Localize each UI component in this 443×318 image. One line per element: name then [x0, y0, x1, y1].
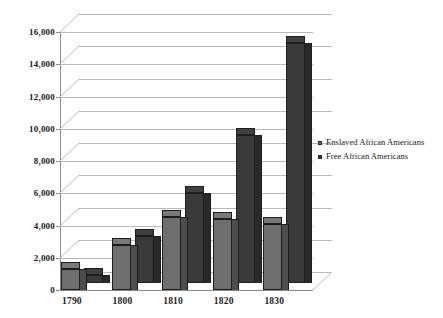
bar-top-face: [185, 186, 204, 193]
plot-area: 02,0004,0006,0008,00010,00012,00014,0001…: [60, 32, 313, 290]
y-axis-tick-label: 16,000: [29, 27, 55, 37]
legend-swatch-icon-enslaved: [318, 141, 322, 145]
gridline-riser: [60, 14, 79, 33]
legend-label-free: Free African Americans: [326, 152, 408, 161]
bar-side-face: [204, 193, 211, 283]
x-axis-label-1800: 1800: [113, 296, 133, 306]
bar-side-face: [154, 236, 161, 283]
bar-front-face: [213, 219, 232, 290]
bar-front-face: [263, 224, 282, 290]
bar-front-face: [162, 217, 181, 290]
gridline: [60, 64, 313, 65]
bar-1800-enslaved: [112, 245, 131, 290]
bar-1810-enslaved: [162, 217, 181, 290]
bar-front-face: [112, 245, 131, 290]
x-axis-label-1810: 1810: [163, 296, 183, 306]
x-axis-label-1790: 1790: [62, 296, 82, 306]
gridline-back: [79, 14, 332, 15]
x-axis-label-1820: 1820: [214, 296, 234, 306]
y-axis-tick-label: 8,000: [34, 156, 55, 166]
gridline-riser: [60, 111, 79, 130]
gridline: [60, 97, 313, 98]
y-axis-tick-mark: [56, 129, 60, 130]
bar-side-face: [305, 43, 312, 283]
bar-side-face: [232, 219, 239, 290]
bar-side-face: [131, 245, 138, 290]
y-axis-tick-mark: [56, 258, 60, 259]
y-axis-tick-label: 10,000: [29, 124, 55, 134]
bar-side-face: [103, 275, 110, 283]
bar-top-face: [162, 210, 181, 217]
x-axis-line: [60, 290, 313, 291]
bar-top-face: [263, 217, 282, 224]
bar-1820-enslaved: [213, 219, 232, 290]
bar-top-face: [286, 36, 305, 43]
x-axis-label-1830: 1830: [264, 296, 284, 306]
gridline-riser: [60, 46, 79, 65]
y-axis-tick-mark: [56, 193, 60, 194]
gridline-riser: [60, 240, 79, 259]
bar-top-face: [236, 128, 255, 135]
bar-front-face: [61, 269, 80, 290]
y-axis-tick-label: 6,000: [34, 188, 55, 198]
gridline: [60, 129, 313, 130]
legend-label-enslaved: Enslaved African Americans: [326, 138, 424, 147]
bar-top-face: [135, 229, 154, 236]
y-axis-tick-mark: [56, 97, 60, 98]
chart-legend: Enslaved African Americans Free African …: [318, 138, 442, 167]
y-axis-tick-mark: [56, 290, 60, 291]
gridline-riser: [60, 79, 79, 98]
legend-item-enslaved: Enslaved African Americans: [318, 138, 442, 147]
bar-top-face: [112, 238, 131, 245]
y-axis-tick-label: 4,000: [34, 221, 55, 231]
bar-1790-enslaved: [61, 269, 80, 290]
y-axis-tick-mark: [56, 161, 60, 162]
gridline-riser: [60, 143, 79, 162]
y-axis-tick-mark: [56, 226, 60, 227]
bar-side-face: [80, 269, 87, 290]
bar-chart: 02,0004,0006,0008,00010,00012,00014,0001…: [0, 0, 443, 318]
bar-side-face: [181, 217, 188, 290]
y-axis-tick-label: 12,000: [29, 92, 55, 102]
gridline-riser: [60, 208, 79, 227]
bar-1830-enslaved: [263, 224, 282, 290]
y-axis-tick-label: 0: [50, 285, 55, 295]
y-axis-tick-mark: [56, 64, 60, 65]
legend-swatch-icon-free: [318, 155, 322, 159]
gridline-riser: [60, 175, 79, 194]
bar-side-face: [255, 135, 262, 283]
y-axis-tick-label: 14,000: [29, 59, 55, 69]
y-axis-tick-mark: [56, 32, 60, 33]
bar-side-face: [282, 224, 289, 290]
gridline: [60, 161, 313, 162]
bar-top-face: [213, 212, 232, 219]
bar-top-face: [61, 262, 80, 269]
gridline: [60, 32, 313, 33]
y-axis-tick-label: 2,000: [34, 253, 55, 263]
legend-item-free: Free African Americans: [318, 152, 442, 161]
